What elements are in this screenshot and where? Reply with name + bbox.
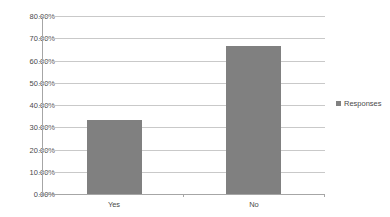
gridline	[42, 105, 325, 106]
x-axis-label-yes: Yes	[64, 200, 164, 209]
gridline	[42, 61, 325, 62]
gridline	[42, 38, 325, 39]
x-axis-label-no: No	[204, 200, 304, 209]
bar-chart: 80.00% 70.00% 60.00% 50.00% 40.00% 30.00…	[0, 0, 390, 217]
legend-swatch-responses	[336, 101, 341, 106]
plot-area	[42, 16, 325, 194]
gridline	[42, 172, 325, 173]
gridline	[42, 150, 325, 151]
legend-label-responses: Responses	[344, 99, 382, 108]
gridline	[42, 16, 325, 17]
bar-no[interactable]	[226, 46, 281, 194]
bar-yes[interactable]	[87, 120, 142, 194]
legend: Responses	[336, 99, 382, 108]
gridline	[42, 83, 325, 84]
gridline	[42, 127, 325, 128]
